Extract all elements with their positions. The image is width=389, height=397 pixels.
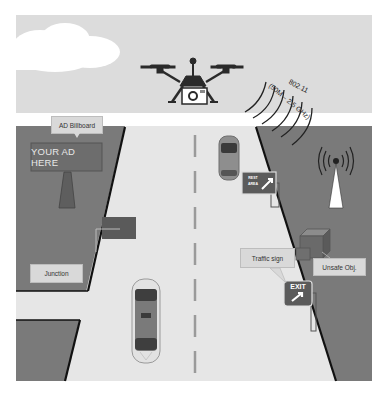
junction-road xyxy=(16,291,96,320)
ad-billboard-callout: AD Billboard xyxy=(51,116,103,134)
camera-icon xyxy=(182,88,207,104)
traffic-sign-callout: Traffic sign xyxy=(240,248,295,268)
junction-callout: Junction xyxy=(30,264,83,283)
car-top-view-icon xyxy=(219,136,239,180)
rest-area-text-line2: AREA xyxy=(244,182,262,186)
billboard-ad-text: YOUR AD HERE xyxy=(31,143,102,171)
car-top-view-icon xyxy=(132,279,160,363)
rest-area-text-line1: REST xyxy=(244,176,262,180)
junction-sign xyxy=(102,217,136,239)
road-scene-diagram: AD Billboard YOUR AD HERE Junction Traff… xyxy=(0,0,389,397)
unsafe-object-callout: Unsafe Obj. xyxy=(313,258,366,276)
billboard-callout-pointer xyxy=(74,133,80,138)
exit-sign-text: EXIT xyxy=(284,283,312,290)
